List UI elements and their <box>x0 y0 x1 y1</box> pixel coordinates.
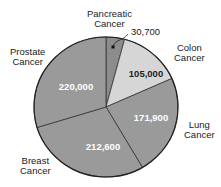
value-lung: 171,900 <box>134 112 168 123</box>
label-colon: Colon Cancer <box>174 43 205 63</box>
label-pancreatic: Pancreatic Cancer <box>87 9 132 29</box>
value-prostate: 220,000 <box>59 81 93 92</box>
label-breast: Breast Cancer <box>20 156 51 176</box>
value-colon: 105,000 <box>129 68 163 79</box>
value-pancreatic: 30,700 <box>131 27 160 37</box>
label-lung: Lung Cancer <box>184 120 215 140</box>
label-prostate: Prostate Cancer <box>10 47 45 67</box>
value-breast: 212,600 <box>86 141 120 152</box>
pancreatic-marker <box>112 46 115 49</box>
